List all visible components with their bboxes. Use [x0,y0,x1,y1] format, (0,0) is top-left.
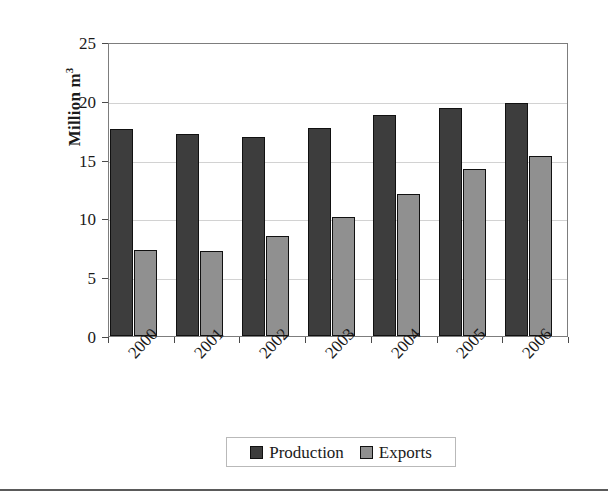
bar-production-2004 [373,115,396,336]
y-tick-label: 0 [56,329,96,346]
x-tick-mark [305,337,306,343]
production-swatch-icon [250,446,263,459]
bar-production-2003 [308,128,331,336]
bar-chart-figure: Million m3 0510152025 200020012002200320… [0,0,608,499]
x-tick-mark [437,337,438,343]
x-tick-mark [174,337,175,343]
bar-exports-2001 [200,251,223,336]
y-tick-label: 15 [56,152,96,169]
bar-production-2005 [439,108,462,336]
bar-production-2006 [505,103,528,336]
x-tick-mark [108,337,109,343]
y-tick-label: 10 [56,211,96,228]
bar-exports-2005 [463,169,486,336]
legend-entry-exports[interactable]: Exports [360,444,432,461]
bar-production-2001 [176,134,199,336]
bar-exports-2000 [134,250,157,336]
bottom-divider [0,489,608,491]
x-tick-mark [239,337,240,343]
x-tick-mark [502,337,503,343]
bar-production-2002 [242,137,265,336]
y-tick-label: 20 [56,93,96,110]
exports-swatch-icon [360,446,373,459]
x-tick-mark [371,337,372,343]
chart-legend: ProductionExports [226,437,456,467]
bar-production-2000 [110,129,133,336]
gridline [109,103,567,104]
legend-label: Production [269,444,344,461]
bar-exports-2006 [529,156,552,336]
y-axis-title-superscript: 3 [63,67,75,73]
bar-exports-2003 [332,217,355,336]
y-tick-label: 5 [56,270,96,287]
bar-exports-2004 [397,194,420,336]
bar-exports-2002 [266,236,289,336]
x-tick-mark [568,337,569,343]
legend-label: Exports [379,444,432,461]
legend-entry-production[interactable]: Production [250,444,344,461]
y-tick-label: 25 [56,35,96,52]
plot-area [108,43,568,337]
